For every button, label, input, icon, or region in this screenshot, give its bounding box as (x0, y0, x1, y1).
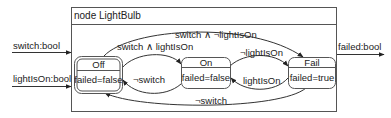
input-lightison-label: lightIsOn:bool (13, 73, 71, 84)
input-switch: switch:bool (12, 40, 71, 53)
state-on-name: On (200, 57, 213, 68)
state-off-name: Off (92, 59, 105, 70)
transition-off-on-label: switch ∧ lightIsOn (117, 41, 193, 52)
input-switch-label: switch:bool (13, 40, 60, 51)
state-off: Off failed=false (74, 57, 122, 94)
output-failed: failed:bool (337, 41, 384, 55)
transition-fail-off-label: ¬switch (195, 95, 227, 106)
node-title: node LightBulb (74, 10, 141, 21)
transition-off-fail-label: switch ∧ ¬lightIsOn (175, 29, 257, 40)
state-on: On failed=false (182, 57, 231, 89)
transition-on-fail-label: ¬lightIsOn (240, 47, 283, 58)
state-fail: Fail failed=true (289, 57, 336, 89)
output-failed-label: failed:bool (338, 41, 381, 52)
state-off-body: failed=false (74, 74, 122, 85)
transition-fail-on-label: lightIsOn (243, 75, 281, 86)
state-fail-name: Fail (304, 57, 319, 68)
input-lightison: lightIsOn:bool (12, 73, 71, 87)
state-fail-body: failed=true (290, 72, 335, 83)
transition-on-off-label: ¬switch (133, 74, 165, 85)
state-machine-diagram: node LightBulb switch:bool lightIsOn:boo… (0, 0, 391, 118)
state-on-body: failed=false (182, 72, 230, 83)
